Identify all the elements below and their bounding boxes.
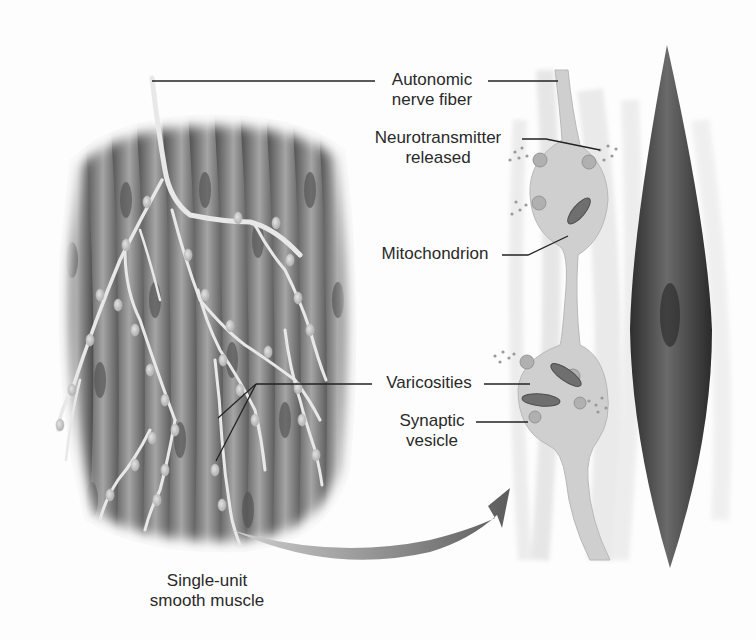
label-varicosities-line1: Varicosities bbox=[374, 373, 484, 393]
cell-nucleus bbox=[660, 283, 680, 347]
label-autonomic-line1: Autonomic bbox=[376, 70, 488, 90]
label-mitochondrion-line1: Mitochondrion bbox=[368, 244, 502, 264]
label-autonomic-nerve-fiber: Autonomic nerve fiber bbox=[376, 70, 488, 110]
label-synaptic-line2: vesicle bbox=[388, 431, 476, 451]
label-synaptic-line1: Synaptic bbox=[388, 411, 476, 431]
label-neurotransmitter-line2: released bbox=[356, 148, 520, 168]
label-single-unit-smooth-muscle: Single-unit smooth muscle bbox=[132, 571, 282, 611]
label-varicosities: Varicosities bbox=[374, 373, 484, 393]
label-muscle-line1: Single-unit bbox=[132, 571, 282, 591]
label-neurotransmitter-released: Neurotransmitter released bbox=[356, 128, 520, 168]
label-muscle-line2: smooth muscle bbox=[132, 591, 282, 611]
label-neurotransmitter-line1: Neurotransmitter bbox=[356, 128, 520, 148]
label-synaptic-vesicle: Synaptic vesicle bbox=[388, 411, 476, 451]
label-mitochondrion: Mitochondrion bbox=[368, 244, 502, 264]
label-autonomic-line2: nerve fiber bbox=[376, 90, 488, 110]
magnified-view bbox=[493, 45, 722, 568]
